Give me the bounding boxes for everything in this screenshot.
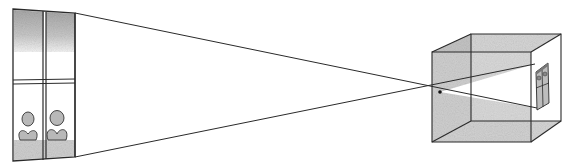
window-object [13, 9, 75, 161]
pinhole [438, 90, 442, 94]
camera-obscura-diagram [0, 0, 574, 165]
window-sky-right [46, 12, 75, 52]
inverted-projected-image [536, 63, 549, 110]
flower-right-icon [47, 111, 67, 141]
flower-left-icon [19, 112, 37, 140]
window-sky-left [14, 10, 44, 52]
